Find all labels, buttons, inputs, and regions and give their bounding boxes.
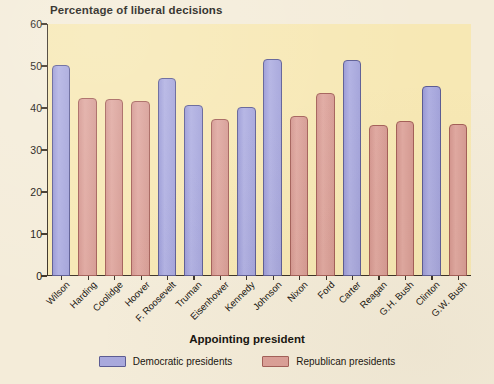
legend-item-republican: Republican presidents (262, 356, 395, 367)
legend-label: Democratic presidents (133, 356, 232, 367)
legend-label: Republican presidents (296, 356, 395, 367)
chart-title: Percentage of liberal decisions (50, 4, 222, 16)
x-tick-label-text: Ford (315, 279, 337, 301)
y-tick-mark (41, 107, 47, 108)
chart-legend: Democratic presidentsRepublican presiden… (0, 356, 494, 367)
y-tick-mark (41, 23, 47, 24)
bar-nixon (290, 116, 309, 276)
legend-swatch-republican (262, 356, 289, 367)
bar-g-h-bush (396, 121, 415, 276)
legend-item-democratic: Democratic presidents (99, 356, 232, 367)
bar-coolidge (105, 99, 124, 276)
bar-harding (78, 98, 97, 277)
bar-g-w-bush (449, 124, 468, 276)
bar-johnson (263, 59, 282, 276)
x-axis-title: Appointing president (0, 333, 494, 345)
y-tick-mark (41, 65, 47, 66)
y-tick-label: 30 (14, 144, 42, 156)
y-tick-mark (41, 233, 47, 234)
y-tick-mark (41, 149, 47, 150)
bar-reagan (369, 125, 388, 276)
bar-ford (316, 93, 335, 276)
x-tick-label-text: Nixon (285, 279, 310, 304)
chart-figure: Percentage of liberal decisions 01020304… (0, 0, 494, 384)
legend-swatch-democratic (99, 356, 126, 367)
y-tick-mark (41, 191, 47, 192)
y-tick-label: 40 (14, 102, 42, 114)
bar-carter (343, 60, 362, 276)
y-tick-label: 60 (14, 18, 42, 30)
bar-wilson (52, 65, 71, 276)
bar-hoover (131, 101, 150, 276)
x-tick-mark (326, 276, 327, 280)
y-tick-label: 50 (14, 60, 42, 72)
bar-f-roosevelt (158, 78, 177, 276)
bar-series (48, 24, 471, 276)
x-tick-mark (141, 276, 142, 280)
y-tick-label: 0 (14, 270, 42, 282)
y-tick-mark (41, 275, 47, 276)
y-tick-label: 20 (14, 186, 42, 198)
bar-eisenhower (211, 119, 230, 276)
y-tick-label: 10 (14, 228, 42, 240)
